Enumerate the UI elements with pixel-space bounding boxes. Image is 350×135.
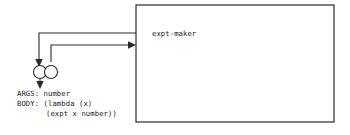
diagram-canvas: expt-maker ARGS: number BODY: (lambda (x… [0, 0, 350, 135]
procedure-body-line-2: (expt x number)) [46, 109, 117, 118]
procedure-args-line: ARGS: number [17, 89, 71, 98]
frame-label-expt-maker: expt-maker [152, 29, 197, 38]
body-to-frame-connector [51, 45, 131, 62]
procedure-body-line-1: BODY: (lambda (x) [17, 99, 92, 108]
procedure-right-circle [45, 66, 58, 79]
procedure-object-diagram: expt-maker ARGS: number BODY: (lambda (x… [0, 0, 350, 135]
environment-frame-box [136, 5, 334, 122]
arrow-head-down-to-text [36, 81, 44, 89]
frame-to-args-connector [39, 33, 136, 62]
arrow-head-right-into-frame [128, 41, 136, 49]
